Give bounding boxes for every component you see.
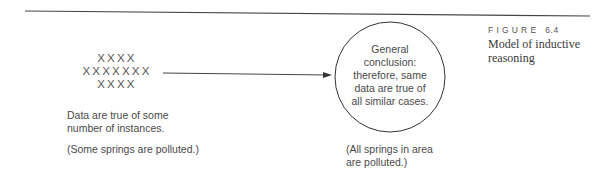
x-row: XXXX xyxy=(57,52,177,64)
figure-label: FIGURE6.4 xyxy=(488,25,559,35)
figure-caption: Model of inductive reasoning xyxy=(488,37,598,65)
x-row: XXXX xyxy=(57,78,177,90)
figure-label-text: FIGURE xyxy=(488,25,539,35)
circle-line: data are true of xyxy=(342,82,438,95)
figure-number: 6.4 xyxy=(545,25,558,35)
arrow-line xyxy=(163,73,328,75)
circle-line: all similar cases. xyxy=(342,95,438,108)
premise-example: (Some springs are polluted.) xyxy=(67,143,227,156)
circle-line: General xyxy=(342,43,438,56)
premise-description: Data are true of some number of instance… xyxy=(67,109,207,135)
conclusion-example: (All springs in area are polluted.) xyxy=(346,143,446,169)
top-rule xyxy=(25,11,590,16)
circle-line: therefore, same xyxy=(342,69,438,82)
x-row: XXXXXXX xyxy=(57,65,177,77)
circle-line: conclusion: xyxy=(342,56,438,69)
arrow-head-icon xyxy=(323,72,332,78)
